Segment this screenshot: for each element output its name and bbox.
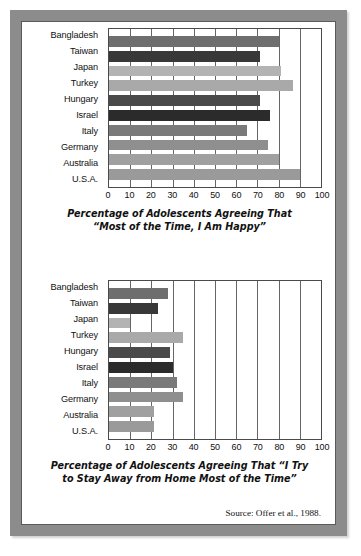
caption-line-1: Percentage of Adolescents Agreeing That: [67, 208, 291, 219]
bar-row: [109, 167, 321, 182]
bar: [109, 154, 279, 165]
category-label: Australia: [31, 408, 103, 424]
category-label: U.S.A.: [31, 172, 103, 188]
bar-row: [109, 345, 321, 360]
category-label: Italy: [31, 124, 103, 140]
bar: [109, 110, 270, 121]
x-axis-tick-label: 30: [167, 442, 177, 452]
category-label: Taiwan: [31, 296, 103, 312]
bar: [109, 140, 268, 151]
caption-line-1: Percentage of Adolescents Agreeing That …: [51, 460, 308, 471]
category-label: Germany: [31, 140, 103, 156]
category-label: Australia: [31, 156, 103, 172]
bar-row: [109, 138, 321, 153]
category-label: Bangladesh: [31, 280, 103, 296]
chart-panel-happy: BangladeshTaiwanJapanTurkeyHungaryIsrael…: [22, 28, 337, 278]
x-axis-tick-label: 60: [232, 442, 242, 452]
category-label: Italy: [31, 376, 103, 392]
bar-chart-away: BangladeshTaiwanJapanTurkeyHungaryIsrael…: [31, 280, 328, 485]
category-label: Hungary: [31, 344, 103, 360]
figure-page: BangladeshTaiwanJapanTurkeyHungaryIsrael…: [0, 0, 361, 556]
x-axis-tick-label: 80: [274, 190, 284, 200]
x-axis-tick-label: 0: [106, 442, 111, 452]
bar: [109, 95, 260, 106]
figure-inner-panel: BangladeshTaiwanJapanTurkeyHungaryIsrael…: [21, 21, 336, 525]
x-axis-tick-label: 70: [253, 190, 263, 200]
bar: [109, 362, 173, 373]
caption-line-2: “Most of the Time, I Am Happy”: [40, 221, 320, 234]
x-axis-tick-label: 100: [315, 190, 329, 200]
bar: [109, 80, 293, 91]
plot-area-away: [108, 280, 322, 440]
category-label: Hungary: [31, 92, 103, 108]
x-axis-tick-label: 50: [210, 190, 220, 200]
x-axis-away: 0102030405060708090100: [108, 440, 322, 456]
x-axis-tick-label: 40: [189, 190, 199, 200]
bar-row: [109, 390, 321, 405]
chart-caption-happy: Percentage of Adolescents Agreeing That …: [40, 208, 320, 233]
category-label: Turkey: [31, 76, 103, 92]
x-axis-tick-label: 40: [189, 442, 199, 452]
chart-body-happy: BangladeshTaiwanJapanTurkeyHungaryIsrael…: [31, 28, 328, 188]
x-axis-tick-label: 100: [315, 442, 329, 452]
chart-caption-away: Percentage of Adolescents Agreeing That …: [40, 460, 320, 485]
bar: [109, 303, 158, 314]
bar-row: [109, 49, 321, 64]
bar-chart-happy: BangladeshTaiwanJapanTurkeyHungaryIsrael…: [31, 28, 328, 233]
bar-row: [109, 123, 321, 138]
bar-row: [109, 419, 321, 434]
bar-row: [109, 286, 321, 301]
category-label: Germany: [31, 392, 103, 408]
bar: [109, 377, 177, 388]
plot-area-happy: [108, 28, 322, 188]
x-axis-tick-label: 70: [253, 442, 263, 452]
x-axis-tick-label: 0: [106, 190, 111, 200]
x-axis-tick-label: 20: [146, 190, 156, 200]
bar-row: [109, 360, 321, 375]
chart-body-away: BangladeshTaiwanJapanTurkeyHungaryIsrael…: [31, 280, 328, 440]
chart-panel-away: BangladeshTaiwanJapanTurkeyHungaryIsrael…: [22, 280, 337, 526]
bar-row: [109, 64, 321, 79]
bar: [109, 66, 281, 77]
bar: [109, 318, 130, 329]
category-label: Taiwan: [31, 44, 103, 60]
bar-series-away: [109, 281, 321, 439]
bar-row: [109, 93, 321, 108]
category-label: Bangladesh: [31, 28, 103, 44]
bar: [109, 169, 300, 180]
x-axis-tick-label: 80: [274, 442, 284, 452]
category-label: Israel: [31, 360, 103, 376]
bar: [109, 288, 168, 299]
bar: [109, 347, 170, 358]
bar: [109, 392, 183, 403]
bar-row: [109, 316, 321, 331]
x-axis-tick-label: 50: [210, 442, 220, 452]
figure-frame: BangladeshTaiwanJapanTurkeyHungaryIsrael…: [10, 10, 347, 536]
x-axis-tick-label: 10: [125, 190, 135, 200]
category-label: Turkey: [31, 328, 103, 344]
x-axis-tick-label: 20: [146, 442, 156, 452]
bar-row: [109, 330, 321, 345]
x-axis-happy: 0102030405060708090100: [108, 188, 322, 204]
source-note: Source: Offer et al., 1988.: [225, 508, 321, 518]
x-axis-tick-label: 10: [125, 442, 135, 452]
bar-row: [109, 108, 321, 123]
bar: [109, 36, 279, 47]
bar-row: [109, 301, 321, 316]
bar-row: [109, 34, 321, 49]
category-labels-happy: BangladeshTaiwanJapanTurkeyHungaryIsrael…: [31, 28, 103, 188]
bar: [109, 406, 154, 417]
bar-row: [109, 78, 321, 93]
x-axis-tick-label: 90: [296, 442, 306, 452]
caption-line-2: to Stay Away from Home Most of the Time”: [40, 473, 320, 486]
x-axis-tick-label: 30: [167, 190, 177, 200]
bar: [109, 51, 260, 62]
bar-row: [109, 375, 321, 390]
category-label: U.S.A.: [31, 424, 103, 440]
bar-row: [109, 152, 321, 167]
bar: [109, 125, 247, 136]
category-labels-away: BangladeshTaiwanJapanTurkeyHungaryIsrael…: [31, 280, 103, 440]
bar-row: [109, 404, 321, 419]
category-label: Israel: [31, 108, 103, 124]
bar-series-happy: [109, 29, 321, 187]
